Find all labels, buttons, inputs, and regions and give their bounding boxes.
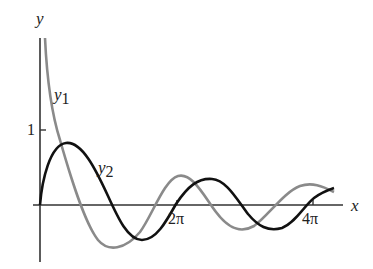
y-axis-label: y [34, 9, 44, 28]
x-tick-label-2pi: 2π [168, 210, 184, 227]
x-tick-label-4pi: 4π [302, 210, 318, 227]
chart: y x y1 y2 1 2π 4π [0, 0, 373, 269]
series-y2-label: y2 [96, 158, 114, 180]
y-tick-label-1: 1 [27, 121, 35, 138]
series-y1-label: y1 [52, 85, 70, 107]
x-axis-label: x [350, 196, 359, 215]
series-y1-line [45, 38, 334, 248]
